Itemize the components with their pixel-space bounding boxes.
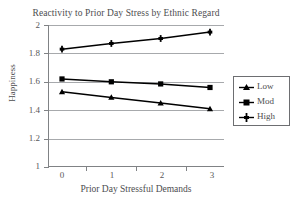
data-series-group (59, 29, 213, 111)
legend-item-low[interactable]: Low (238, 80, 288, 95)
data-point-high-2 (158, 37, 163, 40)
square-marker-icon (238, 95, 255, 110)
data-point-mod-2 (158, 81, 163, 86)
data-point-mod-1 (109, 79, 114, 84)
triangle-marker-icon (238, 80, 255, 95)
legend: Low Mod High (233, 76, 290, 126)
data-point-mod-0 (59, 76, 64, 81)
line-chart: Reactivity to Prior Day Stress by Ethnic… (0, 0, 301, 206)
data-point-high-3 (208, 31, 213, 34)
legend-label: High (257, 111, 275, 121)
series-line-mod (62, 79, 210, 88)
legend-label: Mod (257, 96, 274, 106)
legend-item-mod[interactable]: Mod (238, 95, 288, 110)
data-point-mod-3 (207, 85, 212, 90)
data-point-high-1 (109, 42, 114, 45)
plus-marker-icon (238, 110, 255, 125)
series-line-high (62, 32, 210, 49)
legend-label: Low (257, 81, 274, 91)
series-line-low (62, 92, 210, 109)
data-point-high-0 (60, 48, 65, 51)
x-axis-title: Prior Day Stressful Demands (48, 184, 224, 194)
legend-item-high[interactable]: High (238, 110, 288, 125)
